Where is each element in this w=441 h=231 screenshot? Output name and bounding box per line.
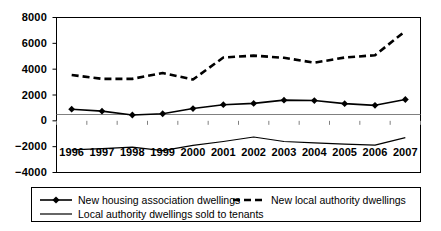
- x-axis-tick-label: 1997: [85, 147, 119, 158]
- legend-label-new-housing-association: New housing association dwellings: [78, 195, 240, 206]
- x-axis-tick-label: 2004: [297, 147, 331, 158]
- chart-container: 80006000400020000−2000−4000 199619971998…: [0, 0, 441, 231]
- legend-item-local-authority-sold: Local authority dwellings sold to tenant…: [39, 207, 264, 221]
- y-axis-tick-label: −2000: [3, 141, 47, 152]
- legend-key-solid-thin: [39, 208, 73, 220]
- y-axis-tick-label: 4000: [3, 64, 47, 75]
- x-axis-tick-label: 1999: [146, 147, 180, 158]
- x-axis-tick-label: 2003: [267, 147, 301, 158]
- x-axis-tick-label: 2002: [237, 147, 271, 158]
- chart-legend: New housing association dwellings New lo…: [31, 187, 421, 222]
- legend-item-new-housing-association: New housing association dwellings: [39, 193, 240, 207]
- y-axis-tick-label: 6000: [3, 38, 47, 49]
- legend-label-new-local-authority: New local authority dwellings: [271, 195, 406, 206]
- legend-item-new-local-authority: New local authority dwellings: [232, 193, 406, 207]
- x-axis-tick-label: 2001: [206, 147, 240, 158]
- x-axis-tick-label: 2005: [328, 147, 362, 158]
- legend-key-solid-with-diamond-markers: [39, 194, 73, 206]
- legend-label-local-authority-sold: Local authority dwellings sold to tenant…: [78, 209, 264, 220]
- x-axis-tick-label: 1998: [115, 147, 149, 158]
- x-axis-tick-label: 2006: [358, 147, 392, 158]
- y-axis-tick-label: −4000: [3, 167, 47, 178]
- x-axis-tick-label: 2007: [388, 147, 422, 158]
- legend-key-dashed: [232, 194, 266, 206]
- x-axis-tick-label: 2000: [176, 147, 210, 158]
- y-axis-tick-label: 8000: [3, 12, 47, 23]
- y-axis-tick-label: 2000: [3, 90, 47, 101]
- y-axis-tick-label: 0: [3, 115, 47, 126]
- x-axis-tick-label: 1996: [55, 147, 89, 158]
